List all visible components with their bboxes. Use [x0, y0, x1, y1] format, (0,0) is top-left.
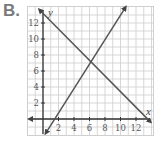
- y-tick-label: 6: [34, 66, 39, 76]
- x-tick-label: 12: [131, 123, 142, 133]
- coordinate-graph: 2468101224681012 y x: [0, 0, 158, 141]
- y-tick-label: 4: [34, 82, 39, 92]
- x-tick-label: 6: [87, 123, 92, 133]
- y-tick-label: 8: [34, 50, 39, 60]
- x-tick-label: 4: [71, 123, 76, 133]
- y-tick-label: 12: [28, 18, 39, 28]
- y-tick-label: 2: [34, 98, 39, 108]
- x-axis-label: x: [145, 105, 151, 117]
- y-axis-label: y: [47, 6, 53, 18]
- x-tick-label: 8: [102, 123, 107, 133]
- x-tick-label: 2: [56, 123, 61, 133]
- y-tick-label: 10: [28, 34, 39, 44]
- x-tick-label: 10: [115, 123, 126, 133]
